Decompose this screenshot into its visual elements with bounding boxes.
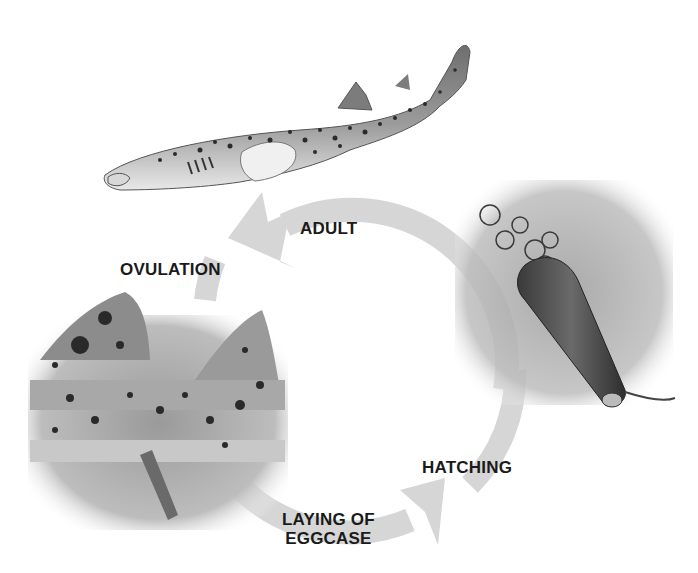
stage-label-adult: ADULT xyxy=(300,219,357,238)
stage-label-laying-line2: EGGCASE xyxy=(282,529,375,548)
life-cycle-diagram: ADULT OVULATION LAYING OF EGGCASE HATCHI… xyxy=(0,0,698,573)
stage-label-ovulation: OVULATION xyxy=(120,260,221,279)
hatching-illustration xyxy=(455,180,675,407)
stage-label-laying-of-eggcase: LAYING OF EGGCASE xyxy=(282,510,375,548)
ovulation-illustration xyxy=(28,292,288,530)
stage-label-hatching: HATCHING xyxy=(422,458,512,477)
adult-shark-illustration xyxy=(104,45,470,190)
stage-label-laying-line1: LAYING OF xyxy=(282,510,375,529)
diagram-canvas xyxy=(0,0,698,573)
